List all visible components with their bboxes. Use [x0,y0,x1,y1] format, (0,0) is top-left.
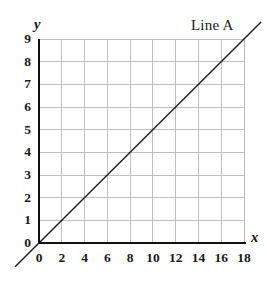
x-tick-label: 10 [143,251,163,265]
y-tick-label: 4 [17,145,31,159]
x-tick-label: 4 [75,251,95,265]
y-tick-label: 1 [17,213,31,227]
y-tick-label: 0 [17,236,31,250]
y-tick-label: 3 [17,168,31,182]
y-tick-label: 7 [17,77,31,91]
line-a-label: Line A [191,18,233,33]
line-graph-figure: 0123456789 024681012141618 y x Line A [0,0,267,284]
x-tick-label: 2 [52,251,72,265]
x-tick-label: 6 [97,251,117,265]
y-axis-label: y [34,17,40,32]
y-tick-label: 9 [17,32,31,46]
x-axis-label: x [251,230,258,245]
x-tick-label: 14 [188,251,208,265]
chart-canvas [0,0,267,284]
x-tick-label: 18 [234,251,254,265]
x-tick-label: 8 [120,251,140,265]
y-tick-label: 2 [17,191,31,205]
y-tick-label: 5 [17,123,31,137]
y-tick-label: 8 [17,55,31,69]
x-tick-label: 0 [29,251,49,265]
y-tick-label: 6 [17,100,31,114]
x-tick-label: 16 [211,251,231,265]
x-tick-label: 12 [166,251,186,265]
